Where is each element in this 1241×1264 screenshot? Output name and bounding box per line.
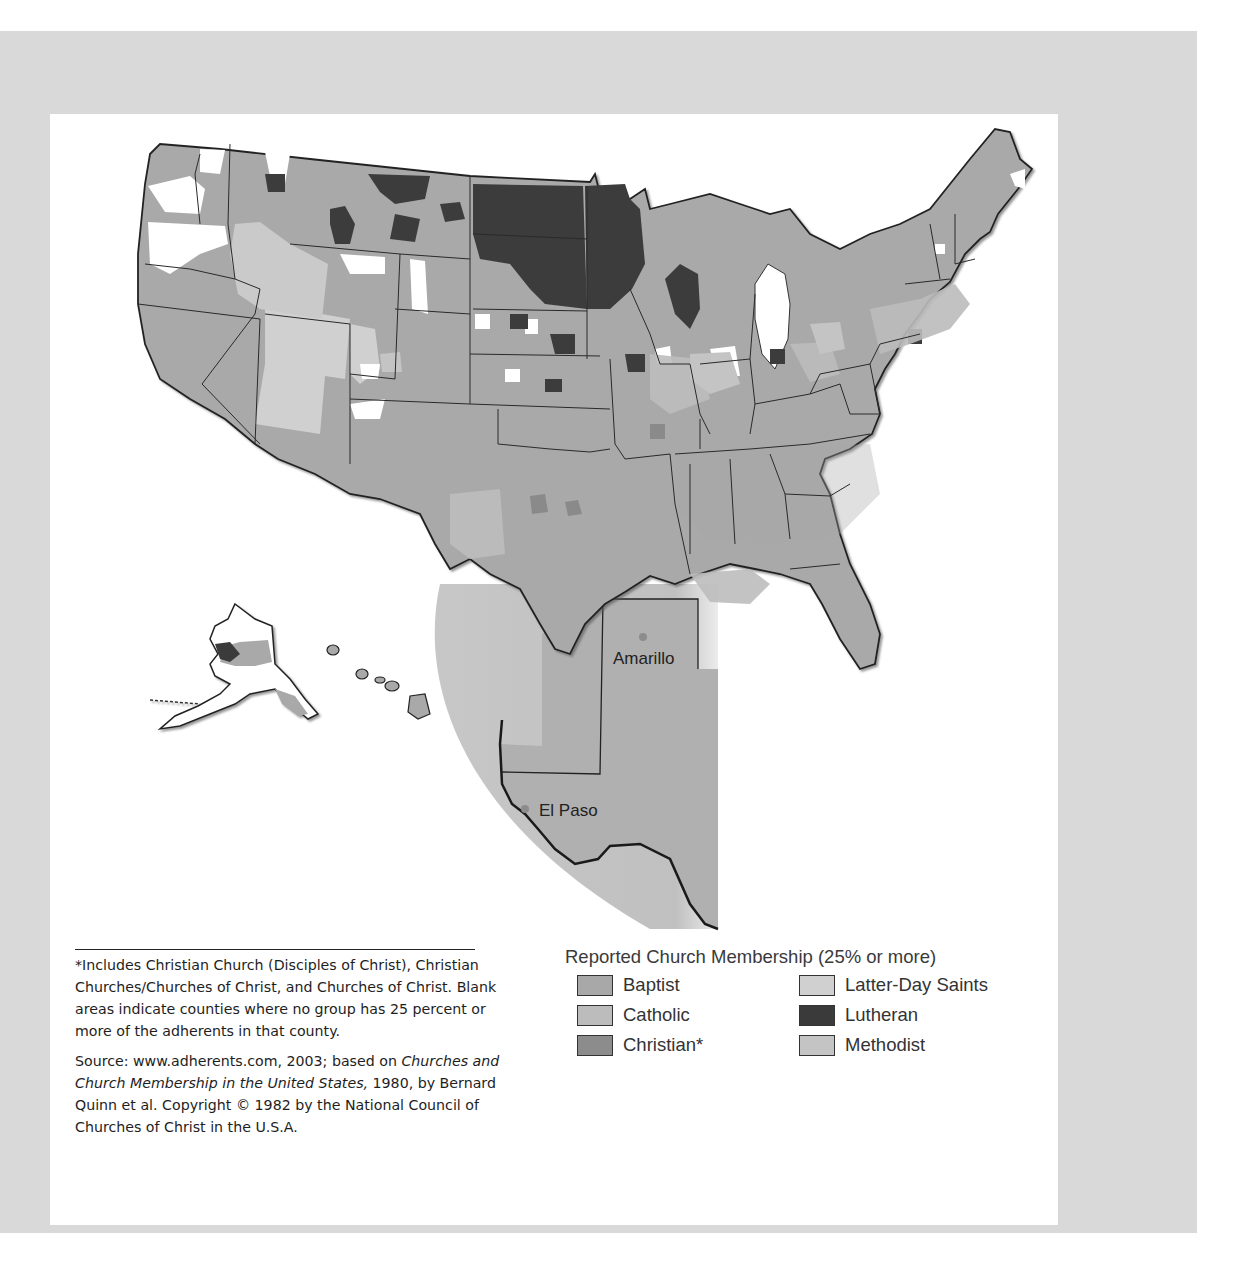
legend-label: Lutheran: [845, 1004, 918, 1026]
figure-frame: Amarillo El Paso: [0, 31, 1197, 1233]
legend-item-christian: Christian*: [565, 1031, 787, 1059]
swatch-icon-methodist: [799, 1035, 835, 1056]
legend-label: Methodist: [845, 1034, 925, 1056]
swatch-icon-christian: [577, 1035, 613, 1056]
legend-label: Catholic: [623, 1004, 690, 1026]
region-baptist: [675, 444, 880, 544]
footnote-rule: [75, 949, 475, 950]
swatch-icon-lutheran: [799, 1005, 835, 1026]
legend-title: Reported Church Membership (25% or more): [565, 946, 1045, 968]
legend-label: Christian*: [623, 1034, 703, 1056]
legend-label: Latter-Day Saints: [845, 974, 988, 996]
hawaii: [327, 645, 430, 719]
city-label-el-paso: El Paso: [539, 801, 598, 820]
legend-item-methodist: Methodist: [787, 1031, 1037, 1059]
us-religion-map: Amarillo El Paso: [50, 114, 1058, 934]
legend-item-catholic: Catholic: [565, 1001, 787, 1029]
city-label-amarillo: Amarillo: [613, 649, 674, 668]
legend-item-lutheran: Lutheran: [787, 1001, 1037, 1029]
alaska: [150, 604, 318, 729]
legend-label: Baptist: [623, 974, 680, 996]
legend-item-baptist: Baptist: [565, 971, 787, 999]
legend: Reported Church Membership (25% or more)…: [565, 946, 1045, 1059]
legend-item-latter-day-saints: Latter-Day Saints: [787, 971, 1037, 999]
asterisk-note: *Includes Christian Church (Disciples of…: [75, 954, 505, 1042]
source-note: Source: www.adherents.com, 2003; based o…: [75, 1050, 505, 1138]
footnote-block: *Includes Christian Church (Disciples of…: [75, 949, 505, 1146]
swatch-icon-catholic: [577, 1005, 613, 1026]
swatch-icon-lds: [799, 975, 835, 996]
legend-items: Baptist Latter-Day Saints Catholic Luthe…: [565, 971, 1045, 1059]
source-prefix: Source: www.adherents.com, 2003; based o…: [75, 1053, 401, 1069]
swatch-icon-baptist: [577, 975, 613, 996]
figure-panel: Amarillo El Paso: [50, 114, 1058, 1225]
